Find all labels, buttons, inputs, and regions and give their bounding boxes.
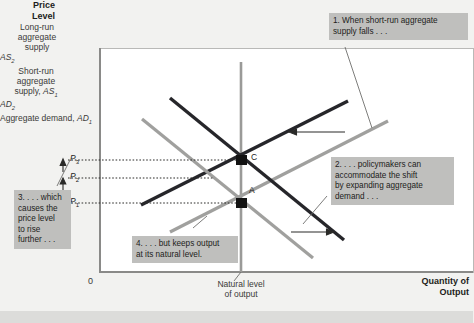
callout-2-line1: 2. . . . policymakers can xyxy=(335,160,450,171)
callout-4: 4. . . . but keeps output at its natural… xyxy=(132,236,238,263)
callout-2-line3: by expanding aggregate xyxy=(335,181,450,192)
bottom-band xyxy=(0,311,473,323)
price-label-p2-sub: 2 xyxy=(76,177,79,183)
callout-4-line2: at its natural level. xyxy=(136,250,234,261)
natural-level-of-output-note: Natural level of output xyxy=(186,279,296,299)
price-label-p2: P2 xyxy=(70,171,79,183)
callout-3-line2: causes the xyxy=(18,204,67,215)
natural-level-line2: of output xyxy=(186,289,296,299)
as-shift-arrow xyxy=(289,129,345,135)
origin-label: 0 xyxy=(88,276,93,286)
callout-3: 3. . . . which causes the price level to… xyxy=(14,190,71,249)
callout-4-line1: 4. . . . but keeps output xyxy=(136,239,234,250)
callout-2: 2. . . . policymakers can accommodate th… xyxy=(331,157,454,205)
callout-3-line3: price level xyxy=(18,214,67,225)
callout-2-line2: accommodate the shift xyxy=(335,171,450,182)
x-axis-title-line1: Quantity of xyxy=(365,276,469,287)
x-axis-title-line2: Output xyxy=(365,287,469,298)
callout-1-leader xyxy=(345,47,372,128)
price-label-p3: P3 xyxy=(70,153,79,165)
callout-3-line5: further . . . xyxy=(18,235,67,246)
point-a-marker xyxy=(236,198,247,208)
callout-2-line4: demand . . . xyxy=(335,192,450,203)
callout-1-line1: 1. When short-run aggregate xyxy=(333,16,464,27)
point-c-marker xyxy=(236,155,247,165)
callout-1: 1. When short-run aggregate supply falls… xyxy=(329,13,468,40)
callout-3-line4: to rise xyxy=(18,225,67,236)
price-label-p1-sub: 1 xyxy=(76,202,79,208)
as2-curve xyxy=(141,101,348,205)
equilibrium-label-c: C xyxy=(251,152,257,162)
ad-shift-arrow xyxy=(291,229,334,235)
callout-3-line1: 3. . . . which xyxy=(18,193,67,204)
equilibrium-label-a: A xyxy=(249,185,255,195)
x-axis-title: Quantity of Output xyxy=(365,276,469,298)
callout-1-line2: supply falls . . . xyxy=(333,27,464,38)
natural-level-line1: Natural level xyxy=(186,279,296,289)
price-label-p3-sub: 3 xyxy=(76,159,79,165)
price-label-p1: P1 xyxy=(70,196,79,208)
